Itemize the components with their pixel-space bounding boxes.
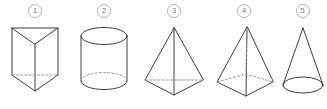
figure-number-1: 1 [28,4,42,18]
square-pyramid-drawing [208,20,280,108]
figure-triangular-pyramid[interactable]: 3 [138,0,210,109]
cylinder-bottom-front-arc [81,81,127,90]
cylinder-drawing [69,20,139,108]
cylinder-top-ellipse [81,28,127,45]
figure-number-2: 2 [97,4,111,18]
figure-label-4: 4 [208,4,280,18]
figure-label-1: 1 [0,4,70,18]
cone-drawing [278,20,327,108]
prism-top-face [12,28,58,44]
cone-base-ellipse [283,77,323,93]
figure-square-pyramid[interactable]: 4 [208,0,280,109]
triangular-pyramid-drawing [138,20,210,108]
triangular-prism-drawing [0,20,70,108]
figure-cylinder[interactable]: 2 [69,0,139,109]
cylinder-bottom-hidden-arc [81,73,127,82]
square-pyramid-base-hidden-edges [217,74,273,82]
figure-board: 1 2 [0,0,327,109]
figure-triangular-prism[interactable]: 1 [0,0,70,109]
figure-label-2: 2 [69,4,139,18]
square-pyramid-outline [217,27,273,96]
figure-number-3: 3 [167,4,181,18]
figure-label-5: 5 [278,4,327,18]
cone-left-slant [283,28,303,85]
figure-number-4: 4 [237,4,251,18]
figure-label-3: 3 [138,4,210,18]
figure-cone[interactable]: 5 [278,0,327,109]
cone-right-slant [303,28,323,85]
figure-number-5: 5 [296,4,310,18]
